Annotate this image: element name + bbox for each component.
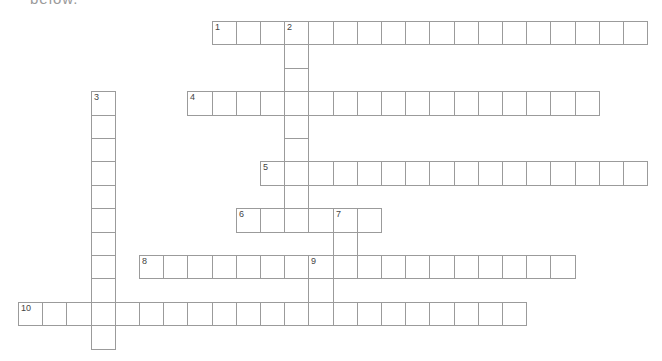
crossword-cell[interactable] <box>333 255 358 279</box>
crossword-cell[interactable] <box>502 302 527 326</box>
crossword-cell[interactable] <box>405 255 430 279</box>
crossword-cell[interactable] <box>236 21 261 45</box>
crossword-cell[interactable] <box>429 21 455 45</box>
crossword-cell[interactable] <box>333 161 358 186</box>
crossword-cell[interactable] <box>405 21 430 45</box>
crossword-cell[interactable] <box>260 91 285 116</box>
crossword-cell[interactable] <box>526 21 551 45</box>
crossword-cell[interactable] <box>308 208 334 233</box>
crossword-cell[interactable] <box>115 302 140 326</box>
crossword-cell[interactable] <box>260 21 285 45</box>
crossword-cell[interactable] <box>308 302 334 326</box>
crossword-cell[interactable] <box>454 91 479 116</box>
crossword-cell[interactable] <box>42 302 67 326</box>
crossword-cell[interactable] <box>429 255 455 279</box>
crossword-cell[interactable] <box>526 255 551 279</box>
crossword-cell[interactable] <box>429 91 455 116</box>
crossword-cell[interactable] <box>405 91 430 116</box>
crossword-cell[interactable] <box>478 161 503 186</box>
crossword-cell[interactable] <box>91 208 116 233</box>
crossword-cell[interactable] <box>429 161 455 186</box>
crossword-cell[interactable] <box>284 161 309 186</box>
crossword-cell[interactable]: 7 <box>333 208 358 233</box>
crossword-cell[interactable] <box>550 255 576 279</box>
crossword-cell[interactable] <box>91 278 116 303</box>
crossword-cell[interactable] <box>575 21 600 45</box>
crossword-cell[interactable] <box>526 161 551 186</box>
crossword-cell[interactable] <box>623 21 648 45</box>
crossword-cell[interactable] <box>91 138 116 162</box>
crossword-cell[interactable] <box>91 185 116 209</box>
crossword-cell[interactable] <box>599 161 624 186</box>
crossword-cell[interactable] <box>405 302 430 326</box>
crossword-cell[interactable] <box>575 161 600 186</box>
crossword-cell[interactable] <box>502 255 527 279</box>
crossword-cell[interactable] <box>454 302 479 326</box>
crossword-cell[interactable]: 10 <box>18 302 43 326</box>
crossword-cell[interactable] <box>478 91 503 116</box>
crossword-cell[interactable] <box>454 161 479 186</box>
crossword-cell[interactable] <box>502 21 527 45</box>
crossword-cell[interactable]: 5 <box>260 161 285 186</box>
crossword-cell[interactable]: 4 <box>187 91 213 116</box>
crossword-cell[interactable] <box>284 44 309 69</box>
crossword-cell[interactable] <box>284 68 309 92</box>
crossword-cell[interactable]: 2 <box>284 21 309 45</box>
crossword-cell[interactable] <box>550 21 576 45</box>
crossword-cell[interactable]: 8 <box>139 255 164 279</box>
crossword-cell[interactable] <box>526 91 551 116</box>
crossword-cell[interactable] <box>478 255 503 279</box>
crossword-cell[interactable] <box>357 91 382 116</box>
crossword-cell[interactable]: 3 <box>91 91 116 116</box>
crossword-cell[interactable] <box>260 208 285 233</box>
crossword-cell[interactable] <box>429 302 455 326</box>
crossword-cell[interactable] <box>91 161 116 186</box>
crossword-cell[interactable] <box>381 302 406 326</box>
crossword-cell[interactable] <box>357 161 382 186</box>
crossword-cell[interactable] <box>502 161 527 186</box>
crossword-cell[interactable] <box>91 232 116 256</box>
crossword-cell[interactable] <box>381 21 406 45</box>
crossword-cell[interactable] <box>308 91 334 116</box>
crossword-cell[interactable] <box>575 91 600 116</box>
crossword-cell[interactable] <box>478 21 503 45</box>
crossword-cell[interactable] <box>91 325 116 350</box>
crossword-cell[interactable] <box>308 278 334 303</box>
crossword-cell[interactable] <box>163 255 188 279</box>
crossword-cell[interactable] <box>405 161 430 186</box>
crossword-cell[interactable] <box>284 138 309 162</box>
crossword-cell[interactable] <box>357 255 382 279</box>
crossword-cell[interactable] <box>212 255 237 279</box>
crossword-cell[interactable] <box>163 302 188 326</box>
crossword-cell[interactable]: 6 <box>236 208 261 233</box>
crossword-cell[interactable] <box>381 161 406 186</box>
crossword-cell[interactable] <box>381 255 406 279</box>
crossword-cell[interactable] <box>260 255 285 279</box>
crossword-cell[interactable] <box>333 91 358 116</box>
crossword-cell[interactable] <box>502 91 527 116</box>
crossword-cell[interactable]: 1 <box>212 21 237 45</box>
crossword-cell[interactable] <box>478 302 503 326</box>
crossword-cell[interactable] <box>333 21 358 45</box>
crossword-cell[interactable] <box>91 115 116 139</box>
crossword-cell[interactable] <box>381 91 406 116</box>
crossword-cell[interactable] <box>308 161 334 186</box>
crossword-cell[interactable] <box>284 91 309 116</box>
crossword-cell[interactable] <box>187 302 213 326</box>
crossword-cell[interactable] <box>236 302 261 326</box>
crossword-cell[interactable] <box>139 302 164 326</box>
crossword-cell[interactable] <box>236 255 261 279</box>
crossword-cell[interactable] <box>454 21 479 45</box>
crossword-cell[interactable] <box>236 91 261 116</box>
crossword-cell[interactable] <box>550 91 576 116</box>
crossword-cell[interactable] <box>333 232 358 256</box>
crossword-cell[interactable] <box>284 255 309 279</box>
crossword-cell[interactable] <box>284 208 309 233</box>
crossword-cell[interactable] <box>284 115 309 139</box>
crossword-cell[interactable] <box>357 21 382 45</box>
crossword-cell[interactable] <box>454 255 479 279</box>
crossword-cell[interactable] <box>550 161 576 186</box>
crossword-cell[interactable] <box>284 185 309 209</box>
crossword-cell[interactable] <box>357 302 382 326</box>
crossword-cell[interactable] <box>623 161 648 186</box>
